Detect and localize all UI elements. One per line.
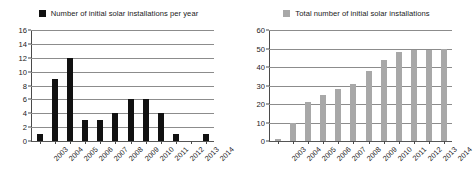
bar-slot — [300, 30, 315, 141]
y-tick-label: 50 — [257, 44, 265, 53]
bar — [112, 113, 118, 141]
x-tick-label: 2007 — [112, 145, 130, 163]
x-tick-mark — [308, 141, 309, 144]
plot-area-cumulative: 0102030405060 20032004200520062007200820… — [269, 30, 452, 141]
bar — [52, 79, 58, 141]
bar — [396, 52, 402, 141]
y-tick-label: 14 — [19, 39, 27, 48]
y-tick-label: 30 — [257, 81, 265, 90]
legend-label-cumulative: Total number of initial solar installati… — [295, 9, 429, 18]
y-tick-label: 10 — [19, 67, 27, 76]
y-tick-mark — [28, 85, 31, 86]
y-tick-mark — [266, 141, 269, 142]
y-tick-mark — [28, 99, 31, 100]
x-tick-label: 2006 — [335, 145, 353, 163]
bar-slot — [47, 30, 62, 141]
y-tick-label: 4 — [23, 109, 27, 118]
x-tick-label: 2012 — [188, 145, 206, 163]
x-tick-label: 2003 — [51, 145, 69, 163]
x-tick-mark — [369, 141, 370, 144]
x-tick-label: 2014 — [456, 145, 474, 163]
bar-slot — [376, 30, 391, 141]
x-tick-label: 2013 — [203, 145, 221, 163]
y-tick-mark — [266, 30, 269, 31]
x-tick-mark — [70, 141, 71, 144]
bar — [381, 60, 387, 141]
y-tick-label: 2 — [23, 123, 27, 132]
y-tick-mark — [266, 85, 269, 86]
bar-slot — [184, 30, 199, 141]
x-tick-mark — [55, 141, 56, 144]
bar — [426, 50, 432, 141]
x-tick-mark — [353, 141, 354, 144]
x-tick-label: 2010 — [158, 145, 176, 163]
legend-swatch-icon — [39, 10, 46, 17]
bar — [411, 50, 417, 141]
bar-slot — [270, 30, 285, 141]
x-tick-mark — [278, 141, 279, 144]
bar-slot — [93, 30, 108, 141]
y-tick-mark — [266, 122, 269, 123]
plot-area-yearly: 0246810121416 20032004200520062007200820… — [31, 30, 214, 141]
x-tick-label: 2004 — [305, 145, 323, 163]
bar — [158, 113, 164, 141]
x-tick-label: 2008 — [365, 145, 383, 163]
legend-yearly: Number of initial solar installations pe… — [0, 7, 237, 19]
bar — [320, 95, 326, 141]
bar-slot — [78, 30, 93, 141]
bar — [290, 123, 296, 142]
bar — [305, 102, 311, 141]
x-tick-label: 2011 — [173, 145, 191, 163]
y-tick-mark — [28, 43, 31, 44]
bar-slot — [32, 30, 47, 141]
y-tick-label: 8 — [23, 81, 27, 90]
x-tick-label: 2004 — [67, 145, 85, 163]
bar-slot — [199, 30, 214, 141]
bar — [128, 99, 134, 141]
y-tick-label: 10 — [257, 118, 265, 127]
bar — [173, 134, 179, 141]
bar — [350, 84, 356, 141]
x-tick-mark — [191, 141, 192, 144]
x-tick-mark — [176, 141, 177, 144]
x-tick-label: 2011 — [411, 145, 429, 163]
bar — [366, 71, 372, 141]
bar — [82, 120, 88, 141]
bar-slot — [422, 30, 437, 141]
x-tick-label: 2008 — [127, 145, 145, 163]
bar — [143, 99, 149, 141]
bars-cumulative — [270, 30, 452, 141]
x-axis-labels-cumulative: 2003200420052006200720082009201020112012… — [270, 145, 452, 179]
y-tick-mark — [28, 141, 31, 142]
y-tick-label: 6 — [23, 95, 27, 104]
bar — [67, 58, 73, 141]
bar — [441, 49, 447, 142]
y-tick-mark — [266, 48, 269, 49]
bar — [37, 134, 43, 141]
y-tick-label: 0 — [261, 137, 265, 146]
x-tick-mark — [146, 141, 147, 144]
y-tick-label: 12 — [19, 53, 27, 62]
y-tick-label: 20 — [257, 100, 265, 109]
y-tick-label: 16 — [19, 26, 27, 35]
bar-slot — [407, 30, 422, 141]
bar-slot — [123, 30, 138, 141]
x-tick-label: 2007 — [350, 145, 368, 163]
bar-slot — [391, 30, 406, 141]
x-tick-mark — [85, 141, 86, 144]
x-tick-mark — [100, 141, 101, 144]
x-tick-label: 2010 — [396, 145, 414, 163]
y-tick-label: 40 — [257, 63, 265, 72]
bar — [203, 134, 209, 141]
bar-slot — [316, 30, 331, 141]
x-tick-label: 2014 — [218, 145, 236, 163]
x-tick-mark — [338, 141, 339, 144]
x-tick-label: 2009 — [380, 145, 398, 163]
x-tick-mark — [429, 141, 430, 144]
x-tick-label: 2012 — [426, 145, 444, 163]
bar-slot — [285, 30, 300, 141]
y-tick-mark — [28, 113, 31, 114]
y-tick-label: 60 — [257, 26, 265, 35]
y-tick-mark — [28, 127, 31, 128]
x-axis-labels-yearly: 2003200420052006200720082009201020112012… — [32, 145, 214, 179]
